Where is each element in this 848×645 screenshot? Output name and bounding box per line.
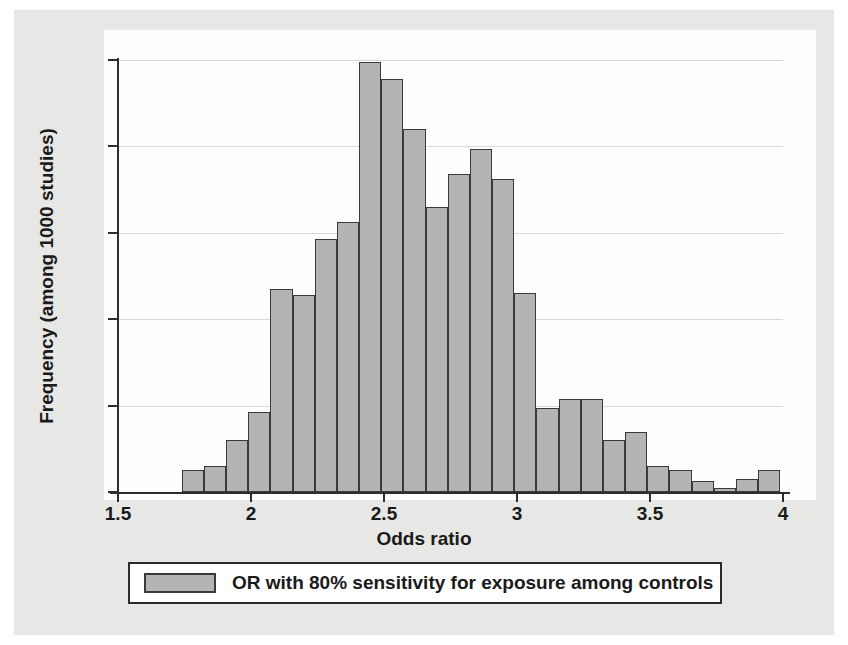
x-axis-tick-label: 1.5	[105, 503, 131, 525]
histogram-bar	[625, 432, 647, 492]
histogram-bar	[226, 440, 248, 492]
histogram-bar	[381, 79, 403, 492]
histogram-bar	[536, 408, 558, 492]
y-axis-title: Frequency (among 1000 studies)	[36, 128, 58, 424]
histogram-bar	[559, 399, 581, 492]
histogram-bar	[293, 295, 315, 492]
y-axis-tick	[108, 405, 118, 407]
histogram-bar	[248, 412, 270, 492]
scanned-page: 020406080100 1.522.533.54 Odds ratio Fre…	[0, 0, 848, 645]
y-axis-line	[117, 58, 119, 494]
x-axis-tick	[250, 492, 252, 502]
x-axis-tick	[649, 492, 651, 502]
histogram-bar	[182, 470, 204, 492]
histogram-bar	[492, 179, 514, 492]
y-axis-tick	[108, 318, 118, 320]
x-axis-tick-label: 2.5	[371, 503, 397, 525]
x-axis-tick-label: 3.5	[637, 503, 663, 525]
legend-swatch-icon	[144, 573, 216, 593]
histogram-bar	[204, 466, 226, 492]
x-axis-tick	[383, 492, 385, 502]
histogram-bar	[359, 62, 381, 492]
x-axis-title: Odds ratio	[0, 528, 848, 550]
histogram-bar	[603, 440, 625, 492]
histogram-bar	[736, 479, 758, 492]
x-axis-tick	[516, 492, 518, 502]
histogram-bar	[669, 470, 691, 492]
y-axis-tick-label: 100	[443, 60, 465, 645]
histogram-bar	[647, 466, 669, 492]
y-axis-title-wrap: Frequency (among 1000 studies)	[34, 60, 60, 492]
histogram-figure: 020406080100 1.522.533.54 Odds ratio Fre…	[0, 0, 848, 645]
histogram-bar	[403, 129, 425, 492]
legend: OR with 80% sensitivity for exposure amo…	[128, 562, 722, 604]
histogram-bar	[337, 222, 359, 492]
histogram-bar	[315, 239, 337, 492]
x-axis-tick-label: 4	[778, 503, 789, 525]
histogram-bar	[514, 293, 536, 492]
x-axis-tick-label: 2	[246, 503, 257, 525]
histogram-bar	[270, 289, 292, 492]
x-axis-tick	[117, 492, 119, 502]
y-axis-tick	[108, 145, 118, 147]
x-axis-tick-label: 3	[512, 503, 523, 525]
histogram-bar	[758, 470, 780, 492]
legend-entry-label: OR with 80% sensitivity for exposure amo…	[232, 572, 713, 594]
y-axis-tick	[108, 232, 118, 234]
histogram-bar	[581, 399, 603, 492]
x-axis-tick	[782, 492, 784, 502]
histogram-bar	[692, 481, 714, 492]
histogram-bar	[470, 149, 492, 492]
y-axis-tick	[108, 59, 118, 61]
